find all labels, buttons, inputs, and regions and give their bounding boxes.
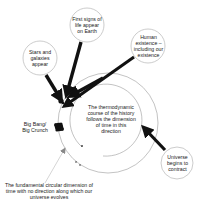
life-label: First signs of life appear on Earth — [72, 12, 102, 38]
thermodynamic-arc-end-dot — [81, 145, 83, 147]
life-label-text: First signs of life appear on Earth — [72, 16, 102, 34]
fundamental-label-text: The fundamental circular dimension of ti… — [5, 182, 93, 200]
direction-dot — [79, 164, 81, 166]
thermodynamic-label: The thermodynamic course of the history … — [86, 104, 136, 134]
big-bang-label: Big Bang/ Big Crunch — [20, 121, 50, 133]
big-bang-label-text: Big Bang/ Big Crunch — [22, 121, 48, 133]
big-bang-blob-icon — [54, 122, 64, 131]
stars-arrow-icon — [46, 75, 60, 98]
stars-label: Stars and galaxies appear — [25, 45, 55, 71]
life-arrow-icon — [67, 42, 81, 93]
stars-label-text: Stars and galaxies appear — [25, 49, 55, 67]
contract-label: Universe begins to contract — [164, 151, 191, 175]
contract-arrow-icon — [145, 129, 165, 150]
cyclic-time-diagram: Stars and galaxies appear First signs of… — [0, 0, 206, 207]
human-label: Human existence – including our existenc… — [133, 32, 164, 60]
thermodynamic-label-text: The thermodynamic course of the history … — [86, 104, 136, 134]
fundamental-pointer-line — [45, 150, 64, 183]
contract-label-text: Universe begins to contract — [164, 154, 191, 172]
fundamental-label: The fundamental circular dimension of ti… — [2, 182, 96, 200]
direction-dot — [75, 161, 77, 163]
human-label-text: Human existence – including our existenc… — [133, 34, 164, 58]
